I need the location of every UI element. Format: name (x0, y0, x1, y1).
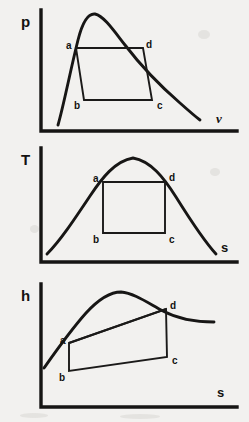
pv-cycle-path (76, 48, 152, 100)
pv-y-axis-label: p (21, 14, 30, 29)
hs-state-c-label: c (172, 356, 178, 366)
hs-cycle-path (69, 309, 167, 371)
ts-state-b-label: b (93, 235, 99, 245)
ts-cycle-path (103, 182, 165, 233)
pv-x-axis-label: v (216, 112, 222, 125)
ts-saturation-curve (47, 158, 216, 254)
ts-x-axis-label: s (221, 241, 228, 254)
pv-state-d-label: d (146, 40, 152, 50)
hs-axes (41, 284, 237, 407)
scan-artifact (20, 413, 48, 418)
scan-artifact (30, 225, 39, 233)
figure-canvas: p v a b c d T s a b c d h s a b c d (0, 0, 249, 422)
ts-state-a-label: a (93, 174, 99, 184)
hs-x-axis-label: s (217, 386, 224, 399)
hs-state-d-label: d (170, 301, 176, 311)
ts-state-d-label: d (169, 173, 175, 183)
pv-state-c-label: c (157, 101, 163, 111)
chart-hs-svg (0, 276, 249, 422)
pv-state-a-label: a (66, 41, 72, 51)
scan-artifact (210, 168, 220, 176)
chart-pv-diagram: p v a b c d (0, 0, 249, 140)
scan-artifact (120, 414, 160, 419)
chart-ts-svg (0, 140, 249, 276)
chart-ts-diagram: T s a b c d (0, 140, 249, 276)
chart-pv-svg (0, 0, 249, 140)
pv-state-b-label: b (74, 101, 80, 111)
hs-state-b-label: b (59, 373, 65, 383)
ts-y-axis-label: T (21, 152, 30, 167)
hs-state-a-label: a (60, 336, 66, 346)
ts-state-c-label: c (169, 235, 175, 245)
hs-y-axis-label: h (21, 288, 30, 303)
chart-hs-diagram: h s a b c d (0, 276, 249, 422)
scan-artifact (198, 30, 210, 39)
